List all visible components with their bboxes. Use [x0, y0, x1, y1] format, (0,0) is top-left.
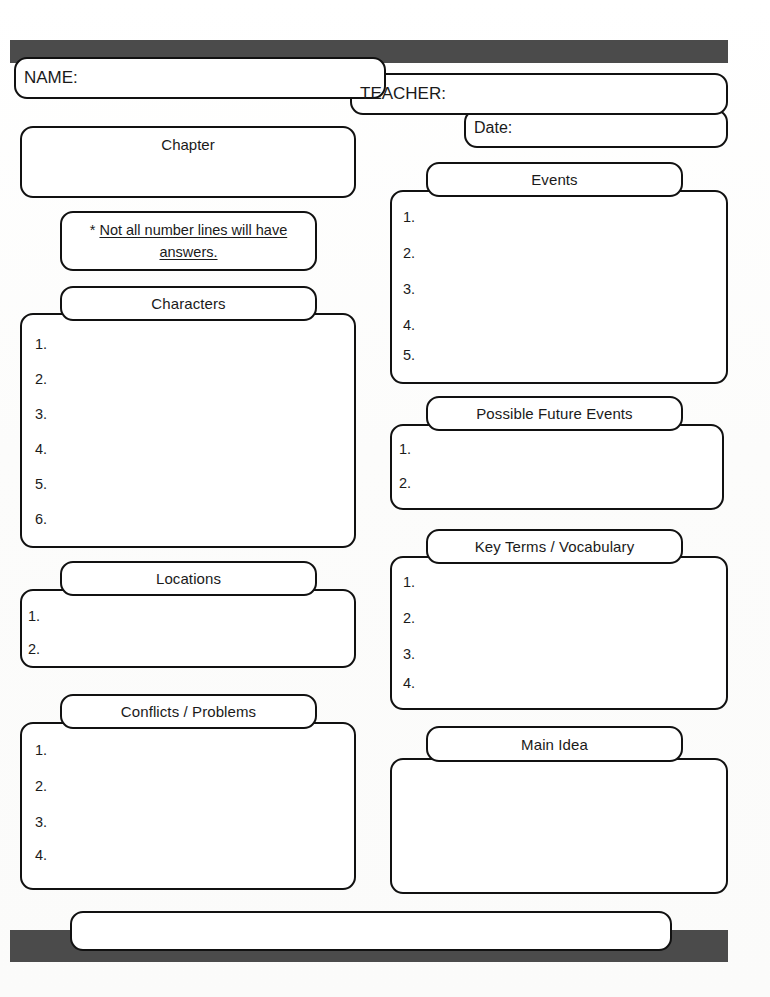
events-title: Events	[531, 172, 577, 187]
note-box: * Not all number lines will have answers…	[60, 211, 317, 271]
conflicts-body[interactable]	[20, 722, 356, 890]
conflicts-item-4: 4.	[35, 847, 47, 863]
events-body[interactable]	[390, 190, 728, 384]
characters-title: Characters	[151, 296, 225, 311]
locations-title: Locations	[156, 571, 221, 586]
key-terms-item-4: 4.	[403, 675, 415, 691]
note-text: Not all number lines will have answers.	[99, 222, 287, 260]
key-terms-item-1: 1.	[403, 574, 415, 590]
future-events-title: Possible Future Events	[476, 406, 632, 421]
date-label: Date:	[474, 119, 512, 137]
characters-item-2: 2.	[35, 371, 47, 387]
main-idea-title: Main Idea	[521, 737, 588, 752]
events-item-2: 2.	[403, 245, 415, 261]
key-terms-body[interactable]	[390, 556, 728, 710]
key-terms-item-2: 2.	[403, 610, 415, 626]
characters-item-1: 1.	[35, 336, 47, 352]
chapter-title: Chapter	[20, 136, 356, 153]
teacher-label: TEACHER:	[360, 84, 446, 104]
locations-item-1: 1.	[28, 608, 40, 624]
characters-title-box: Characters	[60, 286, 317, 321]
conflicts-item-3: 3.	[35, 814, 47, 830]
main-idea-body[interactable]	[390, 758, 728, 894]
future-events-item-2: 2.	[399, 475, 411, 491]
name-label: NAME:	[24, 68, 78, 88]
future-events-title-box: Possible Future Events	[426, 396, 683, 431]
key-terms-item-3: 3.	[403, 646, 415, 662]
characters-item-4: 4.	[35, 441, 47, 457]
future-events-item-1: 1.	[399, 441, 411, 457]
locations-body[interactable]	[20, 589, 356, 668]
characters-item-5: 5.	[35, 476, 47, 492]
characters-item-6: 6.	[35, 511, 47, 527]
characters-body[interactable]	[20, 313, 356, 548]
conflicts-item-2: 2.	[35, 778, 47, 794]
events-item-1: 1.	[403, 209, 415, 225]
future-events-body[interactable]	[390, 424, 724, 510]
key-terms-title: Key Terms / Vocabulary	[475, 539, 635, 554]
note-asterisk: *	[90, 222, 96, 238]
key-terms-title-box: Key Terms / Vocabulary	[426, 529, 683, 564]
note-text-wrap: * Not all number lines will have answers…	[62, 219, 315, 264]
conflicts-title-box: Conflicts / Problems	[60, 694, 317, 729]
events-item-3: 3.	[403, 281, 415, 297]
locations-item-2: 2.	[28, 641, 40, 657]
events-item-4: 4.	[403, 317, 415, 333]
events-title-box: Events	[426, 162, 683, 197]
footer-field[interactable]	[70, 911, 672, 951]
events-item-5: 5.	[403, 347, 415, 363]
worksheet-page: NAME: TEACHER: Date: Chapter * Not all n…	[0, 0, 770, 997]
conflicts-title: Conflicts / Problems	[121, 704, 256, 719]
characters-item-3: 3.	[35, 406, 47, 422]
locations-title-box: Locations	[60, 561, 317, 596]
conflicts-item-1: 1.	[35, 742, 47, 758]
main-idea-title-box: Main Idea	[426, 726, 683, 762]
